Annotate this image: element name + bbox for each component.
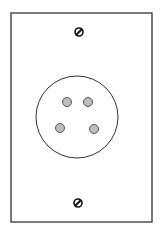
outlet-drawing (0, 0, 162, 234)
socket-pin-hole (84, 98, 93, 107)
socket-recess (36, 76, 118, 158)
socket-pin-hole (63, 98, 72, 107)
socket-pin-hole (90, 125, 99, 134)
socket-pin-hole (56, 124, 65, 133)
bottom-screw-icon (74, 199, 82, 207)
top-screw-icon (75, 28, 83, 36)
